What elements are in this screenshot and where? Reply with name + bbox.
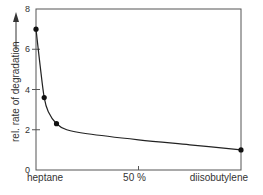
degradation-chart: 02468 heptane 50 % diisobutylene rel. ra… <box>0 0 263 195</box>
data-point-marker <box>33 27 38 32</box>
series-curve <box>36 29 241 150</box>
y-arrow-head-icon <box>13 12 19 22</box>
x-label-50-percent: 50 % <box>123 172 146 183</box>
x-label-diisobutylene: diisobutylene <box>190 172 249 183</box>
y-axis-label: rel. rate of degradation <box>10 41 21 142</box>
plot-frame <box>36 9 241 170</box>
data-point-marker <box>54 121 59 126</box>
y-tick-label: 8 <box>25 4 30 14</box>
y-axis-label-group: rel. rate of degradation <box>10 12 21 142</box>
x-label-heptane: heptane <box>27 172 64 183</box>
data-point-marker <box>238 147 243 152</box>
y-tick-label: 4 <box>25 85 30 95</box>
data-point-marker <box>42 95 47 100</box>
y-tick-label: 2 <box>25 125 30 135</box>
y-tick-label: 6 <box>25 44 30 54</box>
